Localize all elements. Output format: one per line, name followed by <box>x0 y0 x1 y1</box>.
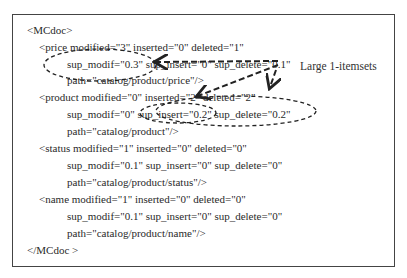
name-path-line: path="catalog/product/name"/> <box>67 227 206 239</box>
status-tag-line: <status modified="1" inserted="0" delete… <box>39 142 247 154</box>
name-support-line: sup_modif="0.1" sup_insert="0" sup_delet… <box>67 210 282 222</box>
price-tag-line: <price modified="3" inserted="0" deleted… <box>39 41 244 53</box>
status-path-line: path="catalog/product/status"/> <box>67 176 207 188</box>
status-support-line: sup_modif="0.1" sup_insert="0" sup_delet… <box>67 159 282 171</box>
price-path-line: path="catalog/product/price"/> <box>67 74 204 86</box>
product-tag-line: <product modified="0" inserted="2" delet… <box>39 91 255 103</box>
product-path-line: path="catalog/product"/> <box>67 125 179 137</box>
product-support-line: sup_modif="0" sup_insert="0.2" sup_delet… <box>67 108 290 120</box>
root-open-tag: <MCdoc> <box>27 24 72 36</box>
price-support-line: sup_modif="0.3" sup_insert="0" sup_delet… <box>67 58 290 70</box>
name-tag-line: <name modified="1" inserted="0" deleted=… <box>39 193 246 205</box>
root-close-tag: </MCdoc > <box>27 244 78 256</box>
large-itemsets-label: Large 1-itemsets <box>300 60 377 72</box>
